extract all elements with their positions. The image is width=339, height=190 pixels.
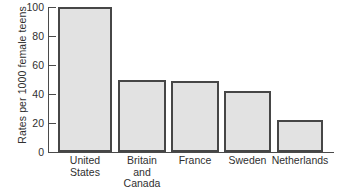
bars-layer [0, 0, 339, 153]
bar-sweden [224, 91, 271, 152]
bar-france [171, 81, 219, 152]
bar-netherlands [277, 120, 323, 152]
bar-united-states [58, 7, 112, 152]
category-label-netherlands: Netherlands [257, 155, 339, 167]
bar-britain-and-canada [118, 80, 166, 153]
bar-chart: Rates per 1000 female teens 020406080100… [0, 0, 339, 190]
x-axis-category-labels: United StatesBritain and CanadaFranceSwe… [0, 155, 339, 190]
